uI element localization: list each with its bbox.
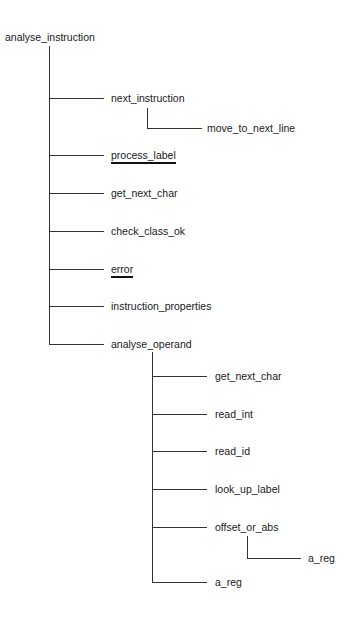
node-analyse-operand: analyse_operand — [111, 338, 192, 350]
branch-op-get-next-char — [152, 376, 207, 377]
branch-op-a-reg — [152, 582, 207, 583]
branch-offset-or-abs — [152, 527, 207, 528]
node-analyse-instruction: analyse_instruction — [5, 31, 95, 43]
trunk-offset-or-abs — [247, 536, 248, 559]
node-instruction-properties: instruction_properties — [111, 300, 211, 312]
node-offset-or-abs: offset_or_abs — [215, 521, 278, 533]
branch-look-up-label — [152, 489, 207, 490]
trunk-analyse-operand — [152, 352, 153, 582]
node-read-id: read_id — [215, 445, 250, 457]
node-move-to-next-line: move_to_next_line — [207, 122, 295, 134]
branch-process-label — [49, 155, 104, 156]
branch-offset-a-reg — [247, 558, 301, 559]
branch-move-to-next-line — [147, 128, 202, 129]
branch-get-next-char — [49, 193, 104, 194]
node-op-a-reg: a_reg — [215, 576, 242, 588]
node-check-class-ok: check_class_ok — [111, 225, 185, 237]
branch-next-instruction — [49, 98, 104, 99]
trunk-analyse-instruction — [49, 46, 50, 344]
branch-analyse-operand — [49, 344, 104, 345]
node-look-up-label: look_up_label — [215, 483, 280, 495]
node-process-label: process_label — [111, 149, 176, 164]
branch-check-class-ok — [49, 231, 104, 232]
branch-instruction-properties — [49, 306, 104, 307]
node-offset-a-reg: a_reg — [308, 552, 335, 564]
branch-read-id — [152, 451, 207, 452]
node-read-int: read_int — [215, 408, 253, 420]
node-op-get-next-char: get_next_char — [215, 370, 282, 382]
node-get-next-char: get_next_char — [111, 187, 178, 199]
node-next-instruction: next_instruction — [111, 92, 185, 104]
node-error: error — [111, 263, 133, 278]
branch-error — [49, 269, 104, 270]
branch-read-int — [152, 414, 207, 415]
trunk-next-instruction — [147, 108, 148, 129]
